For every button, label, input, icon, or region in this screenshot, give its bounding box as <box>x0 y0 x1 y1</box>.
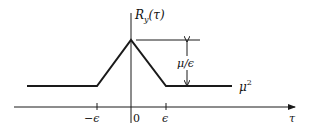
autocorrelation-curve <box>27 40 232 86</box>
y-axis-label: Ry(τ) <box>134 8 165 24</box>
autocorrelation-diagram: Ry(τ) μ/ϵ μ2 −ϵ 0 ϵ τ <box>0 0 313 133</box>
tick-label-neg-eps: −ϵ <box>84 112 99 125</box>
tick-label-zero: 0 <box>133 112 140 125</box>
tick-label-pos-eps: ϵ <box>162 112 168 125</box>
height-label: μ/ϵ <box>177 57 194 70</box>
baseline-label: μ2 <box>239 78 252 94</box>
x-axis-label: τ <box>289 112 296 125</box>
